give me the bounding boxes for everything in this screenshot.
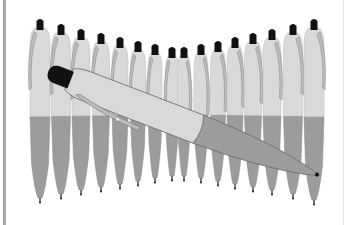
standing-pen — [263, 29, 282, 196]
pens-artwork — [0, 0, 346, 225]
standing-pen — [71, 29, 90, 196]
standing-pen — [227, 37, 244, 190]
standing-pen — [304, 19, 325, 206]
standing-pen — [29, 19, 50, 204]
pens-illustration — [0, 0, 346, 225]
standing-pen — [211, 41, 228, 187]
standing-pen — [245, 33, 263, 193]
standing-pen — [50, 24, 70, 200]
